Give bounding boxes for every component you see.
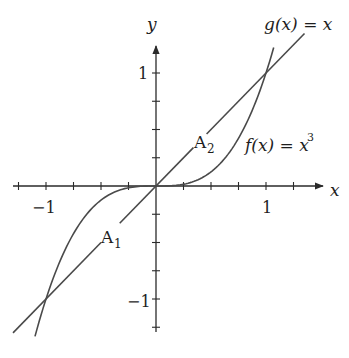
y-tick-label-pos1: 1 [138,64,148,83]
region-a1-label: A 1 [100,227,122,251]
x-axis-label: x [330,180,340,200]
region-a2-label: A 2 [193,132,215,156]
y-tick-label-neg1: −1 [127,292,151,311]
g-line-segment [207,33,305,134]
f-function-label-main: f(x) = x [243,135,309,155]
g-of-x-line [13,33,305,332]
x-tick-label-neg1: −1 [32,198,56,217]
x-tick-label-pos1: 1 [262,198,272,217]
f-function-label-exponent: 3 [307,131,314,144]
g-line-segment [13,243,101,333]
g-function-label: g(x) = x [264,14,333,34]
chart-svg: x y −1 1 1 −1 g(x) = x f(x) = x 3 A 2 A … [0,0,349,358]
cubic-vs-line-figure: x y −1 1 1 −1 g(x) = x f(x) = x 3 A 2 A … [0,0,349,358]
f-function-label: f(x) = x 3 [243,131,314,155]
f-of-x-cubic-curve [35,48,274,337]
region-a1-subscript: 1 [114,237,122,251]
region-a2-letter: A [193,132,207,152]
region-a1-letter: A [100,227,114,247]
region-a2-subscript: 2 [207,142,215,156]
y-axis-label: y [146,14,157,34]
